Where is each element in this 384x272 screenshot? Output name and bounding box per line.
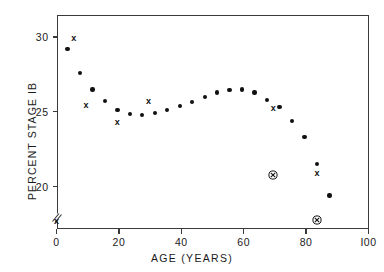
x-tick-label: 20 bbox=[104, 236, 134, 248]
data-point-dot bbox=[227, 88, 231, 92]
y-tick-mark bbox=[53, 111, 58, 112]
y-tick-mark bbox=[53, 186, 58, 187]
data-point-circled-x bbox=[268, 170, 278, 180]
data-point-x: x bbox=[269, 104, 278, 113]
data-point-dot bbox=[215, 90, 219, 94]
plot-frame bbox=[57, 15, 369, 229]
data-point-x: x bbox=[313, 169, 322, 178]
x-tick-mark bbox=[118, 229, 119, 234]
data-point-dot bbox=[203, 95, 207, 99]
data-point-x: x bbox=[69, 34, 78, 43]
data-point-dot bbox=[240, 87, 244, 91]
x-tick-label: 80 bbox=[291, 236, 321, 248]
x-tick-mark bbox=[56, 229, 57, 234]
data-point-x: x bbox=[52, 217, 61, 226]
data-point-circled-x bbox=[312, 215, 322, 225]
data-point-dot bbox=[65, 47, 69, 51]
data-point-dot bbox=[78, 71, 82, 75]
data-point-x: x bbox=[82, 101, 91, 110]
data-point-x: x bbox=[113, 118, 122, 127]
x-tick-mark bbox=[305, 229, 306, 234]
data-point-dot bbox=[90, 87, 94, 91]
scatter-chart-figure: PERCENT STAGE IB AGE (YEARS) 202530 0204… bbox=[0, 0, 384, 272]
y-tick-label: 20 bbox=[27, 181, 49, 193]
y-tick-label: 25 bbox=[27, 106, 49, 118]
x-tick-mark bbox=[243, 229, 244, 234]
data-point-dot bbox=[178, 104, 182, 108]
x-tick-mark bbox=[181, 229, 182, 234]
x-tick-label: I00 bbox=[354, 236, 384, 248]
data-point-dot bbox=[327, 193, 331, 197]
y-tick-mark bbox=[53, 36, 58, 37]
x-tick-mark bbox=[368, 229, 369, 234]
y-tick-label: 30 bbox=[27, 31, 49, 43]
x-tick-label: 40 bbox=[166, 236, 196, 248]
data-point-dot bbox=[115, 108, 119, 112]
x-tick-label: 60 bbox=[229, 236, 259, 248]
data-point-x: x bbox=[144, 97, 153, 106]
x-axis-label: AGE (YEARS) bbox=[0, 252, 384, 264]
data-point-dot bbox=[252, 90, 256, 94]
x-tick-label: 0 bbox=[42, 236, 72, 248]
